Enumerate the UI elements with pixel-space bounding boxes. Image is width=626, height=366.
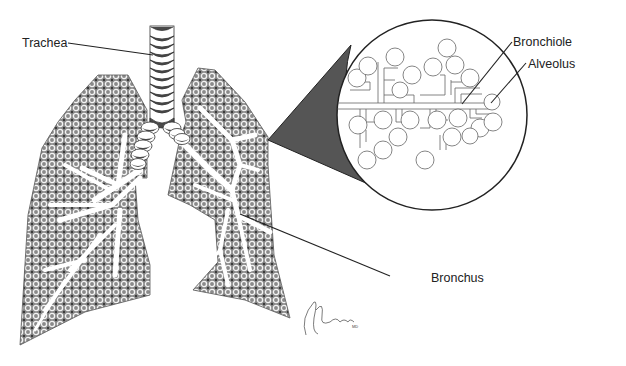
svg-text:MD: MD <box>352 324 358 329</box>
alveoli-magnified-view <box>330 20 527 210</box>
right-lung <box>168 68 290 318</box>
alveolus-label: Alveolus <box>528 58 575 71</box>
trachea-label: Trachea <box>22 37 67 50</box>
left-lung <box>20 75 150 345</box>
bronchiole-label: Bronchiole <box>513 36 572 49</box>
artist-signature: MD <box>304 302 358 335</box>
trachea-leader <box>68 43 153 55</box>
bronchus-label: Bronchus <box>431 272 484 285</box>
lung-diagram: MD <box>0 0 626 366</box>
